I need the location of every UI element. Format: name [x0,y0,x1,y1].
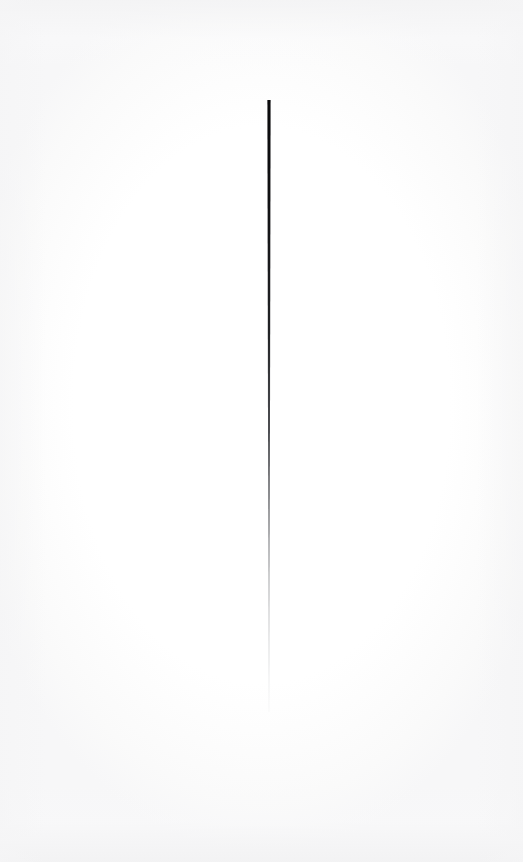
artwork-canvas: .... . .... . . ....... .. [0,0,523,862]
stroke-layer [0,0,523,862]
